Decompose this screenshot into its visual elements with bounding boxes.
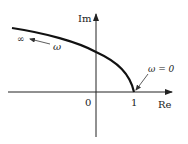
nyquist-diagram: Im Re 0 1 ω = 0 ∞ ω [0,0,188,144]
omega-zero-arrow [136,74,148,90]
omega-direction-arrow [30,39,50,44]
origin-label: 0 [85,97,91,108]
tick-one-label: 1 [131,97,137,108]
omega-label: ω [53,41,61,52]
omega-zero-label: ω = 0 [148,64,175,74]
real-axis-label: Re [158,99,172,110]
nyquist-curve [12,28,134,92]
infinity-label: ∞ [17,34,25,44]
imag-axis-label: Im [78,13,92,24]
